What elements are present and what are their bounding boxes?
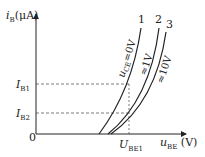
ube1-label: UBE1 bbox=[119, 139, 143, 153]
uce0-label: uCE=0V bbox=[115, 37, 140, 79]
curve-3-number: 3 bbox=[166, 19, 173, 30]
origin-label: 0 bbox=[29, 132, 36, 143]
curve-2-number: 2 bbox=[155, 14, 162, 25]
y-axis-label: iB(μA) bbox=[6, 10, 38, 24]
ib1-label: IB1 bbox=[16, 79, 30, 93]
x-axis-label: uBE (V) bbox=[160, 137, 197, 151]
uce10-label: ≈10V bbox=[154, 54, 173, 85]
curve-1-number: 1 bbox=[138, 14, 145, 25]
ib2-label: IB2 bbox=[16, 108, 30, 122]
